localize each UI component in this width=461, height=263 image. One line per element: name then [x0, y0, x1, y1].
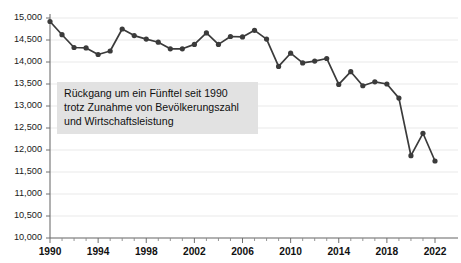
y-tick-label: 14,500 — [14, 34, 42, 44]
data-point-marker — [408, 153, 413, 158]
data-point-marker — [192, 42, 197, 47]
x-tick-label: 1994 — [87, 246, 110, 257]
annotation-textbox: Rückgang um ein Fünftel seit 1990 trotz … — [57, 82, 258, 134]
data-point-marker — [276, 64, 281, 69]
chart-container: 10,00010,50011,00011,50012,00012,50013,0… — [0, 0, 461, 263]
y-tick-label: 14,000 — [14, 56, 42, 66]
data-point-marker — [372, 79, 377, 84]
y-tick-label: 13,500 — [14, 78, 42, 88]
x-tick-label: 2022 — [424, 246, 447, 257]
annotation-line-1: Rückgang um ein Fünftel seit 1990 — [64, 86, 251, 100]
x-tick-label: 1990 — [39, 246, 62, 257]
y-axis-group — [46, 14, 50, 238]
data-point-marker — [396, 95, 401, 100]
y-tick-label: 15,000 — [14, 12, 42, 22]
data-point-marker — [336, 82, 341, 87]
data-point-marker — [59, 32, 64, 37]
data-point-marker — [132, 33, 137, 38]
data-point-marker — [71, 45, 76, 50]
y-tick-label: 12,500 — [14, 122, 42, 132]
annotation-line-2: trotz Zunahme von Bevölkerungszahl — [64, 100, 251, 114]
data-point-marker — [420, 131, 425, 136]
data-point-marker — [324, 56, 329, 61]
data-point-marker — [360, 83, 365, 88]
data-point-marker — [47, 19, 52, 24]
data-point-marker — [204, 30, 209, 35]
data-point-marker — [384, 81, 389, 86]
data-point-marker — [156, 40, 161, 45]
data-point-marker — [264, 37, 269, 42]
x-tick-label: 1998 — [135, 246, 158, 257]
y-tick-label: 10,000 — [14, 232, 42, 242]
data-point-marker — [216, 42, 221, 47]
y-tick-label: 11,000 — [15, 188, 42, 198]
data-point-marker — [312, 59, 317, 64]
data-point-marker — [180, 46, 185, 51]
x-tick-label: 2014 — [327, 246, 350, 257]
data-point-marker — [96, 52, 101, 57]
x-axis-group — [50, 238, 458, 243]
data-point-marker — [120, 26, 125, 31]
x-tick-label: 2010 — [279, 246, 302, 257]
y-tick-labels-group: 10,00010,50011,00011,50012,00012,50013,0… — [14, 12, 42, 242]
y-tick-label: 10,500 — [14, 210, 42, 220]
x-tick-label: 2018 — [376, 246, 399, 257]
x-tick-label: 2006 — [231, 246, 254, 257]
data-point-marker — [108, 48, 113, 53]
data-point-marker — [168, 46, 173, 51]
data-point-marker — [288, 51, 293, 56]
y-tick-label: 11,500 — [15, 166, 42, 176]
data-point-marker — [252, 28, 257, 33]
data-point-marker — [432, 158, 437, 163]
y-tick-label: 13,000 — [14, 100, 42, 110]
data-point-marker — [300, 60, 305, 65]
y-tick-label: 12,000 — [14, 144, 42, 154]
data-point-marker — [83, 45, 88, 50]
data-point-marker — [228, 34, 233, 39]
data-point-marker — [348, 69, 353, 74]
data-point-marker — [144, 37, 149, 42]
data-point-marker — [240, 34, 245, 39]
x-tick-label: 2002 — [183, 246, 206, 257]
x-tick-labels-group: 199019941998200220062010201420182022 — [39, 246, 447, 257]
annotation-line-3: und Wirtschaftsleistung — [64, 114, 251, 128]
